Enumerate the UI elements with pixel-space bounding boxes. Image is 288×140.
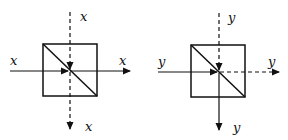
label-bottom-output: y [232, 120, 241, 135]
label-right-output: y [267, 54, 276, 69]
label-top-input: y [227, 10, 236, 25]
label-left-input: x [10, 53, 18, 68]
left-beam-splitter: x x x x [10, 9, 130, 134]
label-bottom-output: x [85, 119, 93, 134]
label-top-input: x [80, 9, 88, 24]
label-left-input: y [157, 54, 166, 69]
label-right-output: x [119, 53, 127, 68]
splitter-diagonal [191, 45, 245, 97]
beam-splitter-diagrams: x x x x y y y y [0, 0, 288, 140]
right-beam-splitter: y y y y [157, 10, 279, 135]
